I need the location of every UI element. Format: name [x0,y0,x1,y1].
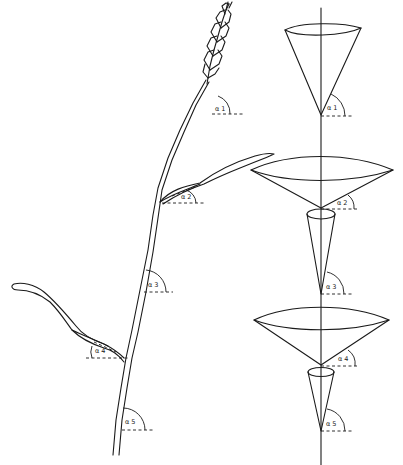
wheat-ear [203,2,232,84]
angle-alpha-5-plant: α 5 [122,408,153,430]
angle-label: α 4 [95,347,106,355]
angle-label: α 1 [327,104,338,112]
upper-leaf [160,154,274,204]
angle-alpha-4-plant: α 4 [86,346,130,358]
stem-left-edge [113,80,206,455]
cone-1 [285,24,361,115]
angle-label: α 2 [337,199,348,207]
angle-label: α 4 [338,355,349,363]
angle-alpha-1-plant: α 1 [212,96,243,114]
cone-model: α 1 α 2 α 3 α 4 [251,8,393,465]
stem-right-edge [119,82,209,455]
wheat-plant: α 1 α 2 α 3 α 4 [12,2,274,455]
angle-alpha-3-cone: α 3 [321,272,352,294]
angle-label: α 5 [326,420,337,428]
angle-alpha-3-plant: α 3 [144,270,173,292]
angle-label: α 5 [125,418,136,426]
angle-label: α 1 [215,105,226,113]
angle-alpha-2-cone: α 2 [321,195,358,209]
diagram-canvas: α 1 α 2 α 3 α 4 [0,0,403,465]
angle-label: α 2 [181,193,192,201]
cone-2 [251,157,393,209]
lower-leaf [12,283,124,362]
angle-label: α 3 [148,281,159,289]
angle-label: α 3 [326,283,337,291]
